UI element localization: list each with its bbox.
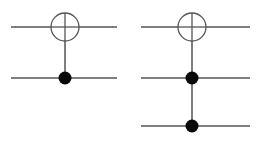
control-dot-icon xyxy=(186,120,199,133)
control-dot-icon xyxy=(186,72,199,85)
circuit-cnot xyxy=(11,13,117,85)
quantum-circuit-figure xyxy=(0,0,261,151)
circuit-canvas xyxy=(0,0,261,151)
control-dot-icon xyxy=(59,72,72,85)
circuit-toffoli xyxy=(141,13,250,133)
